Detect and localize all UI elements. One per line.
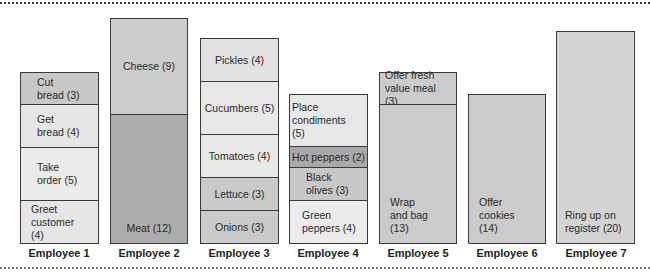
segment-ring-up-on-register: Ring up on register (20) xyxy=(556,31,635,244)
bar-employee-3: Onions (3) Lettuce (3) Tomatoes (4) Cucu… xyxy=(200,38,279,244)
segment-label: Lettuce (3) xyxy=(214,188,264,201)
segment-label: Cheese (9) xyxy=(123,60,175,73)
x-label-employee-1: Employee 1 xyxy=(19,247,99,259)
segment-label: Pickles (4) xyxy=(215,54,264,67)
x-label-employee-5: Employee 5 xyxy=(378,247,458,259)
x-label-employee-6: Employee 6 xyxy=(467,247,547,259)
segment-label: Offer fresh value meal (3) xyxy=(385,69,446,108)
segment-label: Meat (12) xyxy=(127,222,172,235)
segment-black-olives: Black olives (3) xyxy=(289,168,368,201)
segment-label: Black olives (3) xyxy=(306,171,349,197)
segment-take-order: Take order (5) xyxy=(20,148,99,201)
segment-label: Place condiments (5) xyxy=(292,101,357,140)
segment-tomatoes: Tomatoes (4) xyxy=(200,135,279,178)
segment-cucumbers: Cucumbers (5) xyxy=(200,82,279,135)
bar-employee-6: Offer cookies (14) xyxy=(468,94,546,244)
segment-label: Cucumbers (5) xyxy=(205,102,274,115)
segment-cheese: Cheese (9) xyxy=(110,18,188,115)
x-label-employee-4: Employee 4 xyxy=(288,247,368,259)
segment-wrap-and-bag: Wrap and bag (13) xyxy=(379,105,457,244)
segment-label: Offer cookies (14) xyxy=(479,196,535,235)
bar-employee-2: Meat (12) Cheese (9) xyxy=(110,18,188,244)
segment-label: Take order (5) xyxy=(37,161,77,187)
segment-pickles: Pickles (4) xyxy=(200,38,279,82)
segment-label: Wrap and bag (13) xyxy=(390,196,446,235)
bar-employee-5: Wrap and bag (13) Offer fresh value meal… xyxy=(379,72,457,244)
segment-green-peppers: Green peppers (4) xyxy=(289,201,368,244)
segment-lettuce: Lettuce (3) xyxy=(200,178,279,211)
segment-label: Green peppers (4) xyxy=(302,209,356,235)
segment-place-condiments: Place condiments (5) xyxy=(289,94,368,147)
bar-employee-4: Green peppers (4) Black olives (3) Hot p… xyxy=(289,94,368,244)
segment-label: Tomatoes (4) xyxy=(209,150,270,163)
segment-hot-peppers: Hot peppers (2) xyxy=(289,147,368,168)
top-dotted-rule xyxy=(0,2,650,4)
segment-label: Greet customer (4) xyxy=(31,203,88,242)
segment-label: Cut bread (3) xyxy=(37,76,80,102)
segment-get-bread: Get bread (4) xyxy=(20,105,99,148)
segment-label: Hot peppers (2) xyxy=(292,151,365,164)
x-label-employee-3: Employee 3 xyxy=(199,247,279,259)
segment-label: Ring up on register (20) xyxy=(565,209,622,235)
x-label-employee-7: Employee 7 xyxy=(556,247,636,259)
segment-greet-customer: Greet customer (4) xyxy=(20,201,99,244)
segment-onions: Onions (3) xyxy=(200,211,279,244)
x-label-employee-2: Employee 2 xyxy=(109,247,189,259)
segment-meat: Meat (12) xyxy=(110,115,188,244)
segment-label: Get bread (4) xyxy=(37,113,80,139)
segment-label: Onions (3) xyxy=(215,221,264,234)
segment-offer-cookies: Offer cookies (14) xyxy=(468,94,546,244)
bar-employee-7: Ring up on register (20) xyxy=(556,31,635,244)
segment-cut-bread: Cut bread (3) xyxy=(20,72,99,105)
segment-offer-fresh-value-meal: Offer fresh value meal (3) xyxy=(379,72,457,105)
bottom-dotted-rule xyxy=(0,267,650,269)
bar-employee-1: Greet customer (4) Take order (5) Get br… xyxy=(20,72,99,244)
